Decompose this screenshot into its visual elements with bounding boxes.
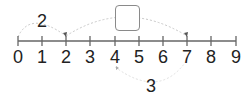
tick-label: 5: [134, 48, 144, 66]
jump-label-3: 3: [146, 77, 156, 95]
tick-label: 9: [231, 48, 241, 66]
jump-label-2: 2: [37, 12, 47, 30]
tick-label: 1: [37, 48, 47, 66]
tick-label: 7: [182, 48, 192, 66]
tick-label: 2: [61, 48, 71, 66]
answer-box[interactable]: [115, 5, 140, 31]
tick-label: 0: [13, 48, 23, 66]
tick-label: 6: [158, 48, 168, 66]
tick-label: 8: [206, 48, 216, 66]
tick-label: 4: [110, 48, 120, 66]
tick-label: 3: [85, 48, 95, 66]
